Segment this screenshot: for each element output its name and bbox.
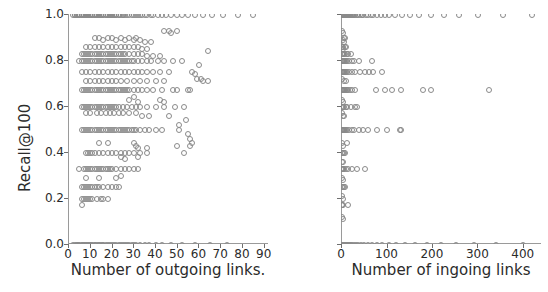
data-point [207, 242, 213, 245]
data-point [200, 14, 206, 18]
data-point [374, 127, 380, 133]
y-tick-label: 0.6 [45, 100, 64, 112]
data-point [205, 78, 211, 84]
y-tick-label: 0.4 [45, 146, 64, 158]
data-point [235, 14, 241, 18]
data-point [183, 117, 189, 123]
y-tick [337, 198, 341, 199]
data-point [370, 69, 376, 75]
data-point [153, 104, 159, 110]
data-point [220, 14, 226, 18]
y-tick [337, 60, 341, 61]
data-point [87, 110, 93, 116]
x-tick-label: 0 [337, 248, 345, 260]
x-tick-label: 60 [191, 248, 206, 260]
y-tick [64, 244, 68, 245]
x-tick-label: 70 [213, 248, 228, 260]
data-point [369, 58, 375, 64]
x-tick-label: 80 [234, 248, 249, 260]
data-point [424, 242, 430, 245]
data-point [137, 104, 143, 110]
data-point [345, 202, 351, 208]
y-tick-label: 0.2 [45, 192, 64, 204]
data-point [159, 127, 165, 133]
data-point [362, 166, 368, 172]
data-point [124, 78, 130, 84]
x-tick-label: 200 [420, 248, 443, 260]
data-point [392, 14, 398, 18]
data-point [161, 78, 167, 84]
data-point [379, 242, 385, 245]
data-point [420, 87, 426, 93]
x-tick-label: 50 [169, 248, 184, 260]
data-point [144, 104, 150, 110]
data-point [159, 87, 165, 93]
data-point [341, 196, 346, 202]
data-point [389, 87, 395, 93]
x-tick-label: 10 [82, 248, 97, 260]
data-point [399, 14, 405, 18]
data-point [412, 242, 418, 245]
data-point [471, 242, 477, 245]
data-point [118, 173, 124, 179]
data-point [146, 113, 152, 119]
data-point [342, 184, 348, 190]
data-point [384, 127, 390, 133]
data-point [529, 14, 535, 18]
data-point [155, 58, 161, 64]
data-point [116, 184, 122, 190]
data-point [398, 127, 404, 133]
data-point [166, 113, 172, 119]
data-point [174, 28, 180, 34]
data-point [348, 51, 354, 57]
data-point [118, 78, 124, 84]
plot-area-outgoing [68, 14, 268, 244]
data-point [148, 58, 154, 64]
data-point [139, 113, 145, 119]
x-tick-labels-outgoing: 0102030405060708090 [68, 246, 268, 262]
data-point [341, 159, 346, 165]
data-point [120, 110, 126, 116]
data-point [192, 242, 198, 245]
data-point [176, 127, 182, 133]
data-point [168, 242, 174, 245]
data-point [142, 39, 148, 45]
x-tick-label: 20 [104, 248, 119, 260]
data-point [416, 14, 422, 18]
data-point [146, 127, 152, 133]
plot-area-ingoing [341, 14, 541, 244]
data-point [185, 14, 191, 18]
data-point [179, 14, 185, 18]
data-point [341, 216, 346, 222]
data-point [161, 58, 167, 64]
data-point [157, 69, 163, 75]
data-point [174, 143, 180, 149]
data-point [179, 58, 185, 64]
data-point [126, 110, 132, 116]
data-point [174, 87, 180, 93]
data-point [144, 78, 150, 84]
data-point [170, 58, 176, 64]
data-point [343, 78, 349, 84]
data-point [105, 196, 111, 202]
data-point [205, 48, 211, 54]
data-point [493, 242, 499, 245]
data-point [144, 46, 150, 52]
data-point [168, 30, 174, 36]
x-tick-label: 30 [126, 248, 141, 260]
data-point [148, 39, 154, 45]
data-point [250, 14, 256, 18]
data-point [486, 87, 492, 93]
data-point [224, 242, 230, 245]
data-point [192, 14, 198, 18]
data-point [428, 87, 434, 93]
data-point [144, 150, 150, 156]
data-point [354, 166, 360, 172]
data-point [342, 150, 348, 156]
data-point [79, 202, 85, 208]
data-point [150, 87, 156, 93]
x-tick-label: 90 [256, 248, 271, 260]
x-tick-label: 400 [511, 248, 534, 260]
scatter-points-outgoing [68, 14, 268, 244]
data-point [96, 175, 102, 181]
